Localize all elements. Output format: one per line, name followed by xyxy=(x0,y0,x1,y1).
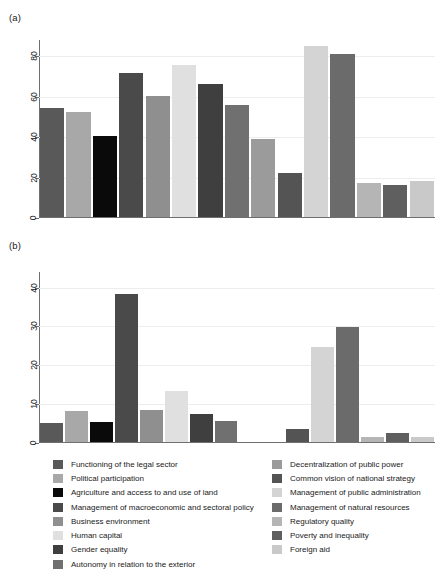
bar xyxy=(146,96,170,217)
legend-swatch-icon xyxy=(53,531,63,540)
legend-item-label: Common vision of national strategy xyxy=(290,474,415,483)
legend-item-label: Management of natural resources xyxy=(290,503,410,512)
legend-item[interactable]: Human capital xyxy=(53,528,254,542)
legend-item[interactable]: Agriculture and access to and use of lan… xyxy=(53,486,254,500)
bar xyxy=(411,437,434,442)
y-axis-tick-label-text: 40 xyxy=(30,132,39,141)
bar xyxy=(386,433,409,442)
bar xyxy=(165,391,188,442)
legend-swatch-icon xyxy=(53,503,63,512)
legend-item[interactable]: Poverty and inequality xyxy=(272,528,421,542)
y-axis-tick-label-text: 0 xyxy=(30,441,39,446)
legend-swatch-icon xyxy=(53,460,63,469)
legend-item-label: Management of macroeconomic and sectoral… xyxy=(71,503,254,512)
bar xyxy=(361,437,384,442)
legend-item-label: Poverty and inequality xyxy=(290,531,369,540)
plot-area-b: 010203040 xyxy=(39,272,435,443)
legend-item[interactable]: Autonomy in relation to the exterior xyxy=(53,557,254,571)
legend-item[interactable]: Foreign aid xyxy=(272,543,421,557)
bar xyxy=(65,411,88,442)
legend-column-right: Decentralization of public powerCommon v… xyxy=(272,457,421,557)
bar xyxy=(311,347,334,442)
legend-item[interactable]: Regulatory quality xyxy=(272,514,421,528)
bar xyxy=(90,422,113,442)
legend-item-label: Regulatory quality xyxy=(290,517,354,526)
legend-item-label: Human capital xyxy=(71,531,122,540)
legend-item-label: Political participation xyxy=(71,474,144,483)
chart-panel-b: (b) 010203040 xyxy=(0,232,443,457)
legend-item-label: Autonomy in relation to the exterior xyxy=(71,560,195,569)
legend-swatch-icon xyxy=(272,545,282,554)
legend-item[interactable]: Management of macroeconomic and sectoral… xyxy=(53,500,254,514)
bar xyxy=(40,423,63,442)
y-axis-tick-label-text: 20 xyxy=(30,173,39,182)
y-axis-tick-label-text: 20 xyxy=(30,361,39,370)
bar xyxy=(278,173,302,218)
panel-a-label: (a) xyxy=(9,12,21,23)
legend-item-label: Functioning of the legal sector xyxy=(71,460,178,469)
legend-item[interactable]: Management of natural resources xyxy=(272,500,421,514)
legend-swatch-icon xyxy=(53,545,63,554)
bar xyxy=(357,183,381,217)
y-axis-tick-label-text: 60 xyxy=(30,92,39,101)
bar xyxy=(251,139,275,217)
bar xyxy=(225,105,249,217)
bar xyxy=(40,108,64,217)
y-axis-tick-label-text: 30 xyxy=(30,322,39,331)
legend-swatch-icon xyxy=(272,503,282,512)
x-axis-line-b xyxy=(39,442,435,443)
chart-panel-a: (a) 020406080 xyxy=(0,0,443,232)
legend-item-label: Foreign aid xyxy=(290,545,330,554)
bar xyxy=(304,46,328,217)
legend-item[interactable]: Functioning of the legal sector xyxy=(53,457,254,471)
legend-swatch-icon xyxy=(272,517,282,526)
legend-item-label: Gender equality xyxy=(71,545,127,554)
legend-item-label: Decentralization of public power xyxy=(290,460,403,469)
legend-column-left: Functioning of the legal sectorPolitical… xyxy=(53,457,254,571)
legend-item-label: Business environment xyxy=(71,517,150,526)
bar xyxy=(140,410,163,442)
legend-item[interactable]: Political participation xyxy=(53,471,254,485)
legend-swatch-icon xyxy=(272,474,282,483)
legend-item[interactable]: Decentralization of public power xyxy=(272,457,421,471)
bar xyxy=(198,84,222,218)
legend-swatch-icon xyxy=(53,488,63,497)
plot-area-a: 020406080 xyxy=(39,40,435,218)
y-axis-tick-label-text: 0 xyxy=(30,216,39,221)
bar-group-b xyxy=(40,272,435,442)
chart-legend: Functioning of the legal sectorPolitical… xyxy=(0,457,443,574)
legend-swatch-icon xyxy=(53,560,63,569)
legend-item[interactable]: Business environment xyxy=(53,514,254,528)
legend-item-label: Management of public administration xyxy=(290,488,421,497)
legend-item[interactable]: Gender equality xyxy=(53,543,254,557)
y-axis-tick-label-text: 10 xyxy=(30,399,39,408)
y-axis-tick-label-text: 40 xyxy=(30,283,39,292)
panel-b-label: (b) xyxy=(9,240,21,251)
bar xyxy=(119,73,143,217)
legend-swatch-icon xyxy=(53,474,63,483)
bar xyxy=(115,294,138,442)
legend-item[interactable]: Management of public administration xyxy=(272,486,421,500)
figure-root: (a) 020406080 (b) 010203040 Functioning … xyxy=(0,0,443,574)
bar xyxy=(93,136,117,217)
bar xyxy=(190,414,213,442)
legend-swatch-icon xyxy=(272,488,282,497)
y-axis-tick-label-text: 80 xyxy=(30,51,39,60)
legend-swatch-icon xyxy=(53,517,63,526)
legend-item-label: Agriculture and access to and use of lan… xyxy=(71,488,218,497)
bar-group-a xyxy=(40,40,435,217)
bar xyxy=(215,421,238,442)
legend-swatch-icon xyxy=(272,460,282,469)
bar xyxy=(330,54,354,217)
bar xyxy=(336,327,359,442)
bar xyxy=(66,112,90,217)
bar xyxy=(410,181,434,217)
legend-swatch-icon xyxy=(272,531,282,540)
bar xyxy=(286,429,309,442)
legend-item[interactable]: Common vision of national strategy xyxy=(272,471,421,485)
x-axis-line-a xyxy=(39,217,435,218)
bar xyxy=(172,65,196,217)
bar xyxy=(383,185,407,217)
